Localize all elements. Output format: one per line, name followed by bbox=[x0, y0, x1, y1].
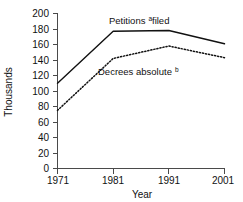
annotation-petitions-text: Petitions bbox=[109, 15, 146, 26]
annotation-petitions: Petitions a filed bbox=[109, 15, 169, 27]
x-label-1981: 1981 bbox=[102, 175, 125, 186]
annotation-decrees-text: Decrees absolute bbox=[98, 66, 172, 77]
x-axis-title: Year bbox=[132, 189, 153, 200]
x-tick-labels: 1971 1981 1991 2001 bbox=[47, 175, 235, 186]
y-tick-marks bbox=[53, 14, 58, 169]
series-decrees-line bbox=[58, 46, 225, 110]
annotation-decrees: Decrees absolute b bbox=[98, 66, 179, 78]
y-label-100: 100 bbox=[32, 86, 49, 97]
line-chart: 200 180 160 140 120 100 80 60 40 20 0 19… bbox=[0, 0, 243, 202]
chart-canvas: 200 180 160 140 120 100 80 60 40 20 0 19… bbox=[0, 0, 243, 202]
y-tick-labels: 200 180 160 140 120 100 80 60 40 20 0 bbox=[32, 8, 49, 174]
y-label-60: 60 bbox=[38, 117, 50, 128]
y-label-40: 40 bbox=[38, 132, 50, 143]
x-label-1971: 1971 bbox=[47, 175, 70, 186]
annotation-petitions-tail: filed bbox=[152, 15, 169, 26]
x-label-2001: 2001 bbox=[212, 175, 235, 186]
y-label-80: 80 bbox=[38, 101, 50, 112]
y-axis-title: Thousands bbox=[3, 67, 14, 116]
x-tick-marks bbox=[58, 169, 225, 174]
y-label-200: 200 bbox=[32, 8, 49, 19]
y-label-160: 160 bbox=[32, 39, 49, 50]
x-label-1991: 1991 bbox=[158, 175, 181, 186]
y-label-0: 0 bbox=[43, 163, 49, 174]
axes-group bbox=[58, 14, 225, 169]
annotation-decrees-superscript: b bbox=[175, 66, 179, 73]
y-label-120: 120 bbox=[32, 70, 49, 81]
y-label-20: 20 bbox=[38, 148, 50, 159]
y-label-180: 180 bbox=[32, 24, 49, 35]
y-label-140: 140 bbox=[32, 55, 49, 66]
